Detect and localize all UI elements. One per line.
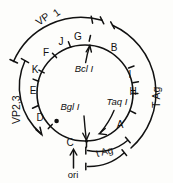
- fragment-label-B: B: [111, 42, 118, 53]
- fragment-label-D: D: [36, 112, 43, 123]
- fragment-label-A: A: [117, 119, 124, 130]
- t-ag-label-group: T Ag: [150, 86, 162, 108]
- fragment-label-I: I: [129, 69, 132, 80]
- enzyme-label-taq-i: Taq I: [107, 96, 128, 107]
- fragment-label-E: E: [30, 85, 37, 96]
- map-canvas: G J F K E D C A H I B Bcl I Bgl I Taq I …: [0, 0, 173, 183]
- t-ag-small-label-group: t Ag: [95, 144, 114, 159]
- bcl-i-arrow: [86, 46, 92, 63]
- bgl-i-arrow: [83, 116, 90, 140]
- fragment-label-J: J: [59, 36, 64, 47]
- enzyme-label-bgl-i: Bgl I: [60, 101, 79, 112]
- vp23-label: VP2,3: [10, 95, 22, 124]
- vp1-arc-tick: [91, 16, 92, 23]
- t-ag-small-label: t Ag: [95, 144, 114, 159]
- fragment-label-H: H: [129, 86, 136, 97]
- fragment-labels: G J F K E D C A H I B: [30, 31, 137, 148]
- taq-i-arrow: [99, 111, 114, 135]
- fragment-label-C: C: [66, 137, 73, 148]
- sv40-genome-map: G J F K E D C A H I B Bcl I Bgl I Taq I …: [0, 0, 173, 183]
- vp1-subscript: 1: [50, 6, 62, 19]
- fragment-label-G: G: [74, 31, 82, 42]
- vp23-label-group: VP2,3: [10, 95, 22, 124]
- ori-label: ori: [68, 169, 79, 180]
- ori-arrow: [70, 149, 77, 168]
- t-ag-label: T Ag: [150, 86, 162, 108]
- fragment-label-F: F: [43, 47, 49, 58]
- fragment-label-K: K: [32, 64, 39, 75]
- enzyme-labels: Bcl I Bgl I Taq I: [60, 63, 127, 112]
- enzyme-label-bcl-i: Bcl I: [75, 63, 94, 74]
